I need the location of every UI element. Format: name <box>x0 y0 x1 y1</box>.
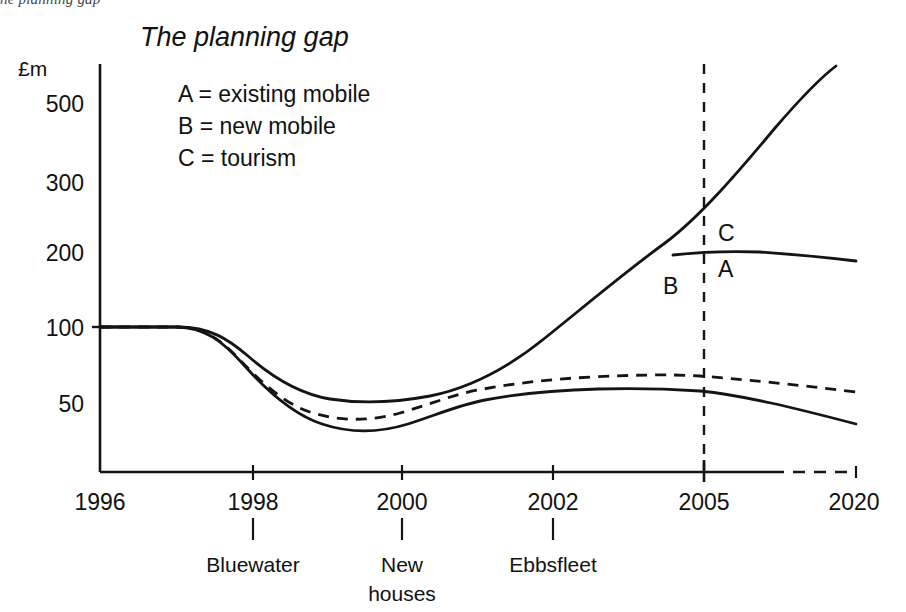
chart-plot-svg <box>0 0 906 612</box>
chart-figure: he planning gap The planning gap £m A = … <box>0 0 906 612</box>
curve-a-existing-mobile <box>673 252 856 261</box>
curve-b-new-mobile-dashed <box>100 327 856 419</box>
curve-c-tourism <box>100 66 836 402</box>
